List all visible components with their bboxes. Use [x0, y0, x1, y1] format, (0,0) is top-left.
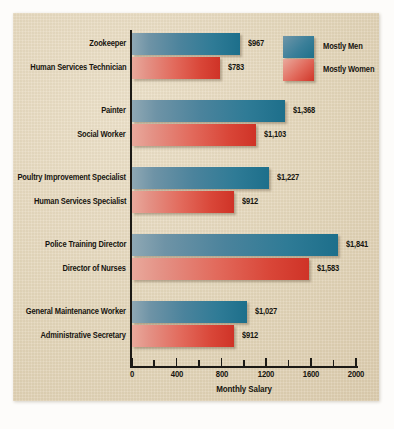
axis-tick-minor [288, 360, 290, 367]
bar-value-label: $912 [242, 324, 258, 348]
category-label: Poultry Improvement Specialist [18, 166, 126, 190]
bar-mostly-men [132, 100, 285, 122]
bar-row: Human Services Specialist$912 [0, 190, 394, 214]
axis-tick-minor [243, 360, 245, 367]
category-label: Zookeeper [89, 32, 126, 56]
axis-tick-label: 2000 [338, 369, 375, 379]
bar-mostly-women [132, 258, 309, 280]
axis-tick-label: 1600 [293, 369, 330, 379]
bar-value-label: $1,227 [277, 166, 299, 190]
bar-value-label: $912 [242, 190, 258, 214]
category-label: Human Services Specialist [34, 190, 126, 214]
axis-tick-label: 400 [158, 369, 195, 379]
legend-label-mostly-women: Mostly Women [323, 59, 374, 81]
axis-tick-major [265, 358, 267, 367]
bar-value-label: $967 [248, 32, 264, 56]
bar-mostly-men [132, 167, 269, 189]
bar-group: Poultry Improvement Specialist$1,227Huma… [0, 166, 394, 214]
axis-tick-minor [153, 360, 155, 367]
bar-mostly-men [132, 33, 240, 55]
category-label: Human Services Technician [30, 56, 126, 80]
bar-group: Police Training Director$1,841Director o… [0, 233, 394, 281]
category-label: Director of Nurses [63, 257, 126, 281]
axis-tick-label: 800 [203, 369, 240, 379]
bar-mostly-women [132, 325, 234, 347]
legend-swatch-mostly-women [283, 59, 314, 81]
axis-tick-major [131, 358, 133, 367]
bar-value-label: $783 [228, 56, 244, 80]
bar-row: Administrative Secretary$912 [0, 324, 394, 348]
bar-row: Director of Nurses$1,583 [0, 257, 394, 281]
bar-mostly-women [132, 124, 256, 146]
axis-tick-major [221, 358, 223, 367]
bar-value-label: $1,368 [293, 99, 315, 123]
bar-value-label: $1,583 [317, 257, 339, 281]
bar-mostly-men [132, 301, 247, 323]
bar-mostly-women [132, 191, 234, 213]
category-label: Painter [101, 99, 126, 123]
axis-tick-major [310, 358, 312, 367]
category-label: General Maintenance Worker [26, 300, 126, 324]
bar-group: Painter$1,368Social Worker$1,103 [0, 99, 394, 147]
category-label: Social Worker [78, 123, 126, 147]
bar-mostly-women [132, 57, 220, 79]
plot-area: Zookeeper$967Human Services Technician$7… [0, 0, 394, 429]
bar-row: Painter$1,368 [0, 99, 394, 123]
legend-label-mostly-men: Mostly Men [323, 36, 363, 58]
bar-row: General Maintenance Worker$1,027 [0, 300, 394, 324]
axis-tick-label: 1200 [248, 369, 285, 379]
bar-value-label: $1,027 [255, 300, 277, 324]
category-label: Administrative Secretary [41, 324, 126, 348]
bar-row: Police Training Director$1,841 [0, 233, 394, 257]
axis-tick-major [176, 358, 178, 367]
bar-mostly-men [132, 234, 338, 256]
bar-value-label: $1,841 [346, 233, 368, 257]
bar-group: General Maintenance Worker$1,027Administ… [0, 300, 394, 348]
axis-tick-label: 0 [114, 369, 151, 379]
category-label: Police Training Director [45, 233, 126, 257]
axis-tick-minor [198, 360, 200, 367]
bar-row: Social Worker$1,103 [0, 123, 394, 147]
bar-row: Poultry Improvement Specialist$1,227 [0, 166, 394, 190]
x-axis-title: Monthly Salary [139, 384, 349, 394]
chart-page: Zookeeper$967Human Services Technician$7… [0, 0, 394, 429]
axis-tick-minor [333, 360, 335, 367]
axis-tick-major [355, 358, 357, 367]
legend-swatch-mostly-men [283, 36, 314, 58]
bar-value-label: $1,103 [264, 123, 286, 147]
